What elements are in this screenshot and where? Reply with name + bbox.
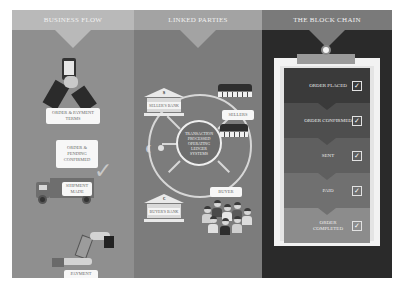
storefront-icon bbox=[218, 84, 252, 98]
sleeve-icon bbox=[104, 236, 114, 248]
device-icon bbox=[158, 145, 164, 151]
checkbox-checked-icon: ✓ bbox=[352, 116, 362, 126]
buyers-bank-icon: € Buyer's Bank bbox=[144, 194, 184, 222]
clipboard-clip bbox=[297, 54, 355, 64]
ledger-system-hub: Transaction Processed Operating Ledger S… bbox=[176, 120, 222, 166]
sellers-bank-label: Seller's Bank bbox=[147, 102, 181, 109]
checkmark-icon: ✓ bbox=[94, 160, 112, 182]
sleeve-icon bbox=[52, 258, 64, 267]
checkbox-checked-icon: ✓ bbox=[352, 151, 362, 161]
wireless-signal-icon: ((( bbox=[146, 143, 149, 153]
checkbox-checked-icon: ✓ bbox=[352, 81, 362, 91]
sellers-label: Sellers bbox=[222, 110, 254, 120]
linked-parties-column: Linked Parties Transaction Processed Ope… bbox=[134, 10, 262, 278]
truck-window bbox=[39, 185, 47, 190]
storefront-icon bbox=[220, 124, 248, 138]
clipboard-pin-icon bbox=[321, 45, 331, 55]
hand-icon bbox=[64, 76, 78, 88]
sellers-bank-icon: $ Seller's Bank bbox=[144, 88, 184, 116]
wheel-icon bbox=[38, 195, 47, 204]
buyers-bank-label: Buyer's Bank bbox=[148, 208, 181, 215]
blockchain-column: The Block Chain Order Placed ✓ Order Con… bbox=[262, 10, 392, 278]
wheel-icon bbox=[82, 195, 91, 204]
header-notch bbox=[55, 30, 91, 48]
receiving-hand-icon bbox=[62, 258, 92, 265]
crowd-icon bbox=[198, 200, 254, 236]
checkbox-checked-icon: ✓ bbox=[352, 221, 362, 231]
blockchain-header: The Block Chain bbox=[262, 10, 392, 30]
step-label-shipment: Shipment Made bbox=[62, 182, 92, 196]
linked-parties-header: Linked Parties bbox=[134, 10, 262, 30]
business-flow-column: Business Flow Order & Payment Terms Orde… bbox=[12, 10, 134, 278]
chain-step-order-placed: Order Placed ✓ bbox=[284, 68, 370, 103]
checkbox-checked-icon: ✓ bbox=[352, 186, 362, 196]
step-label-order-payment: Order & Payment Terms bbox=[46, 108, 100, 124]
header-notch bbox=[180, 30, 216, 48]
business-flow-header: Business Flow bbox=[12, 10, 134, 30]
step-label-order-confirmed: Order & Pending Confirmed bbox=[56, 140, 98, 168]
buyer-label: Buyer bbox=[210, 187, 242, 197]
step-label-payment-received: Payment Received bbox=[64, 270, 98, 278]
